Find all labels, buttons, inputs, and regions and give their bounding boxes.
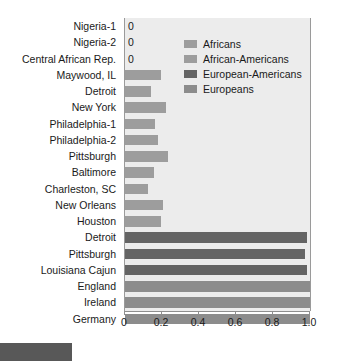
y-axis-label: Central African Rep. (0, 51, 120, 67)
bar (125, 135, 158, 146)
legend-label: Europeans (203, 83, 254, 95)
figure-bar-chart: Nigeria-1Nigeria-2Central African Rep.Ma… (0, 0, 342, 361)
y-axis-label: Louisiana Cajun (0, 262, 120, 278)
chart-legend: AfricansAfrican-AmericansEuropean-Americ… (184, 36, 302, 96)
legend-swatch-icon (184, 40, 197, 48)
bar-row (125, 148, 310, 164)
bar-row (125, 116, 310, 132)
bar-row (125, 99, 310, 115)
legend-label: Africans (203, 38, 241, 50)
bar-row (125, 278, 310, 294)
x-axis-tick (272, 311, 273, 315)
legend-item: Africans (184, 36, 302, 51)
bar (125, 216, 161, 227)
y-axis-label: Maywood, IL (0, 67, 120, 83)
y-axis-label: Houston (0, 213, 120, 229)
bar (125, 167, 154, 178)
bar (125, 200, 163, 211)
y-axis-category-labels: Nigeria-1Nigeria-2Central African Rep.Ma… (0, 18, 120, 327)
bar (125, 281, 310, 292)
x-axis-tick-label: 1.0 (302, 316, 317, 328)
x-axis-tick (198, 311, 199, 315)
bar-row (125, 164, 310, 180)
legend-item: African-Americans (184, 51, 302, 66)
y-axis-label: England (0, 278, 120, 294)
x-axis-tick-label: 0 (121, 316, 127, 328)
x-axis-tick-label: 0.4 (191, 316, 206, 328)
bar (125, 119, 155, 130)
y-axis-label: New York (0, 99, 120, 115)
legend-label: African-Americans (203, 53, 289, 65)
y-axis-label: Ireland (0, 294, 120, 310)
legend-swatch-icon (184, 55, 197, 63)
legend-swatch-icon (184, 70, 197, 78)
bar (125, 232, 307, 243)
bar-row (125, 246, 310, 262)
y-axis-label: Pittsburgh (0, 246, 120, 262)
x-axis-tick-label: 0.8 (265, 316, 280, 328)
x-axis-tick-label: 0.6 (228, 316, 243, 328)
y-axis-label: Germany (0, 311, 120, 327)
legend-swatch-icon (184, 85, 197, 93)
y-axis-label: Detroit (0, 83, 120, 99)
bar-row (125, 197, 310, 213)
bar-row: 0 (125, 18, 310, 34)
bar (125, 184, 148, 195)
legend-item: European-Americans (184, 66, 302, 81)
y-axis-label: Baltimore (0, 164, 120, 180)
bar (125, 151, 168, 162)
bar-row (125, 181, 310, 197)
x-axis-tick (235, 311, 236, 315)
y-axis-label: Detroit (0, 229, 120, 245)
y-axis-label: New Orleans (0, 197, 120, 213)
bar (125, 249, 305, 260)
bar-row (125, 294, 310, 310)
x-axis-tick (309, 311, 310, 315)
bar-value-label: 0 (128, 34, 134, 50)
bar (125, 102, 166, 113)
x-axis-tick (161, 311, 162, 315)
bar (125, 70, 161, 81)
bar-row (125, 132, 310, 148)
y-axis-label: Philadelphia-2 (0, 132, 120, 148)
y-axis-label: Nigeria-1 (0, 18, 120, 34)
x-axis-tick (124, 311, 125, 315)
y-axis-label: Pittsburgh (0, 148, 120, 164)
bar-row (125, 229, 310, 245)
bar-row (125, 262, 310, 278)
y-axis-label: Nigeria-2 (0, 34, 120, 50)
bar (125, 265, 307, 276)
bar-value-label: 0 (128, 18, 134, 34)
y-axis-label: Charleston, SC (0, 181, 120, 197)
bar-row (125, 213, 310, 229)
x-axis-tick-label: 0.2 (154, 316, 169, 328)
legend-item: Europeans (184, 81, 302, 96)
bar (125, 86, 151, 97)
bar (125, 297, 310, 308)
bar-value-label: 0 (128, 51, 134, 67)
y-axis-label: Philadelphia-1 (0, 116, 120, 132)
caption-label-block (0, 343, 72, 361)
x-axis-line (124, 311, 310, 312)
legend-label: European-Americans (203, 68, 302, 80)
